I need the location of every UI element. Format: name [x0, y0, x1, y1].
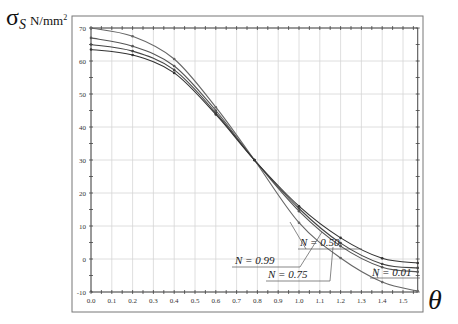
y-tick-label: 50: [79, 91, 87, 99]
data-marker: [253, 159, 256, 162]
data-marker: [298, 210, 301, 213]
data-marker: [173, 65, 176, 68]
y-tick-label: 30: [79, 157, 87, 165]
data-marker: [90, 27, 93, 30]
curves: [90, 27, 419, 293]
x-tick-label: 0.4: [170, 297, 179, 305]
curve-050: [91, 45, 418, 268]
x-tick-label: 0.1: [107, 297, 116, 305]
data-marker: [215, 113, 218, 116]
data-marker: [416, 262, 419, 265]
y-tick-label: 70: [79, 25, 87, 33]
chart-frame: [72, 16, 423, 312]
x-tick-label: 1.4: [378, 297, 387, 305]
y-tick-label: 40: [79, 124, 87, 132]
x-tick-label: 1.2: [336, 297, 345, 305]
curve-075: [91, 38, 418, 272]
data-marker: [381, 257, 384, 260]
annotation-label: N = 0.50: [299, 236, 340, 248]
y-tick-label: 0: [83, 256, 87, 264]
data-marker: [131, 50, 134, 53]
annotation-label: N = 0.75: [267, 268, 308, 280]
x-tick-label: 0.0: [87, 297, 96, 305]
curve-001: [91, 49, 418, 263]
chart-plot: 0.00.10.20.30.40.50.60.70.80.91.01.11.21…: [0, 0, 458, 324]
x-tick-label: 0.8: [253, 297, 262, 305]
data-marker: [131, 54, 134, 57]
x-tick-label: 0.7: [232, 297, 241, 305]
x-tick-label: 1.1: [315, 297, 324, 305]
data-marker: [416, 290, 419, 293]
x-tick-label: 0.5: [191, 297, 200, 305]
data-marker: [90, 43, 93, 46]
data-marker: [339, 237, 342, 240]
x-tick-label: 0.2: [128, 297, 137, 305]
data-marker: [339, 245, 342, 248]
x-tick-label: 1.3: [357, 297, 366, 305]
data-marker: [416, 271, 419, 274]
data-marker: [381, 281, 384, 284]
annotation-label: N = 0.99: [234, 254, 275, 266]
data-marker: [416, 267, 419, 270]
data-marker: [131, 35, 134, 38]
data-marker: [173, 69, 176, 72]
data-marker: [215, 106, 218, 109]
data-marker: [298, 221, 301, 224]
data-marker: [131, 45, 134, 48]
annotations: N = 0.50N = 0.01N = 0.99N = 0.75: [232, 222, 420, 281]
data-marker: [90, 48, 93, 51]
x-tick-label: 0.9: [274, 297, 283, 305]
data-marker: [381, 263, 384, 266]
data-marker: [173, 58, 176, 61]
y-tick-label: 20: [79, 190, 87, 198]
x-tick-label: 0.3: [149, 297, 158, 305]
x-tick-label: 1.5: [399, 297, 408, 305]
data-marker: [339, 242, 342, 245]
data-marker: [173, 72, 176, 75]
x-tick-label: 1.0: [295, 297, 304, 305]
data-marker: [298, 205, 301, 208]
y-tick-label: 60: [79, 58, 87, 66]
y-tick-label: 10: [79, 223, 87, 231]
data-marker: [90, 37, 93, 40]
y-tick-label: -10: [77, 289, 87, 297]
x-tick-label: 0.6: [211, 297, 220, 305]
data-marker: [339, 257, 342, 260]
